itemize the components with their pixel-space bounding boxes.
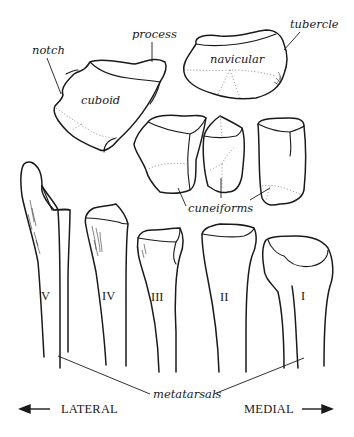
metatarsal-iii-numeral: III (151, 290, 164, 304)
navicular-label: navicular (210, 52, 266, 66)
intermediate-cuneiform-bone (203, 116, 244, 193)
metatarsal-ii-bone (202, 224, 256, 372)
medial-direction: MEDIAL (244, 402, 332, 416)
cuboid-label: cuboid (81, 93, 120, 107)
process-label: process (132, 27, 177, 41)
left-arrow-icon (20, 405, 30, 413)
metatarsal-iv-numeral: IV (102, 289, 115, 303)
lateral-label: LATERAL (61, 402, 118, 416)
tubercle-label: tubercle (290, 17, 339, 31)
metatarsals-leader-right (214, 358, 304, 394)
tubercle-leader-line (284, 32, 300, 50)
metatarsal-v-numeral: V (41, 289, 50, 303)
right-arrow-icon (322, 405, 332, 413)
notch-leader-line (47, 58, 61, 94)
foot-bones-diagram: cuboid notch process navicular tubercle (0, 0, 354, 437)
metatarsal-i-bone (263, 236, 333, 368)
metatarsal-iv-bone (85, 204, 128, 366)
metatarsals-label: metatarsals (153, 387, 222, 401)
metatarsal-ii-numeral: II (220, 290, 228, 304)
lateral-direction: LATERAL (20, 402, 118, 416)
metatarsal-v-bone (21, 162, 70, 368)
metatarsals-leader-left (58, 356, 150, 394)
metatarsal-i-numeral: I (301, 289, 305, 303)
lateral-cuneiform-bone (134, 115, 206, 193)
medial-label: MEDIAL (244, 402, 294, 416)
notch-label: notch (32, 43, 65, 57)
medial-cuneiform-bone (258, 118, 306, 205)
cuneiforms-label: cuneiforms (188, 201, 253, 215)
